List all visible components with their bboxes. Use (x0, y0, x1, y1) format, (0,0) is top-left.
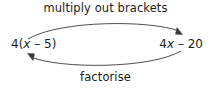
top-arrow-curve (28, 24, 179, 39)
diagram-canvas: multiply out brackets 4(x – 5) 4x – 20 f… (0, 0, 211, 90)
bottom-arrow-label: factorise (0, 72, 211, 84)
top-arrow-head-icon (176, 28, 183, 35)
bottom-arrow-curve (31, 51, 181, 65)
bottom-arrow-head-icon (28, 54, 35, 61)
